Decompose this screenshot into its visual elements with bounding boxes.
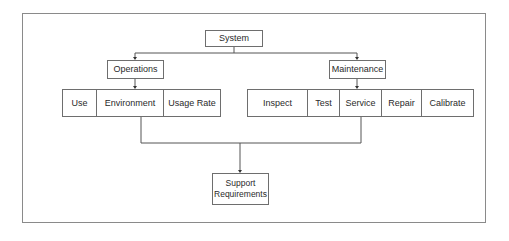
maintenance-box: Maintenance — [329, 60, 386, 79]
test-label: Test — [315, 98, 332, 108]
use-label: Use — [71, 98, 87, 108]
repair-label: Repair — [388, 98, 415, 108]
environment-label: Environment — [105, 98, 156, 108]
support-requirements-box: Support Requirements — [212, 173, 269, 205]
maintenance-label: Maintenance — [332, 64, 384, 75]
calibrate-cell: Calibrate — [421, 89, 474, 117]
usage-rate-label: Usage Rate — [168, 98, 216, 108]
service-label: Service — [345, 98, 375, 108]
support-label-line1: Support — [226, 178, 256, 189]
service-cell: Service — [339, 89, 382, 117]
system-label: System — [219, 33, 249, 44]
repair-cell: Repair — [381, 89, 422, 117]
operations-box: Operations — [107, 60, 164, 79]
environment-cell: Environment — [96, 89, 164, 117]
use-cell: Use — [62, 89, 97, 117]
inspect-cell: Inspect — [247, 89, 308, 117]
calibrate-label: Calibrate — [429, 98, 465, 108]
operations-label: Operations — [113, 64, 157, 75]
inspect-label: Inspect — [263, 98, 292, 108]
usage-rate-cell: Usage Rate — [163, 89, 221, 117]
system-box: System — [205, 30, 263, 47]
test-cell: Test — [307, 89, 340, 117]
support-label-line2: Requirements — [214, 189, 267, 200]
